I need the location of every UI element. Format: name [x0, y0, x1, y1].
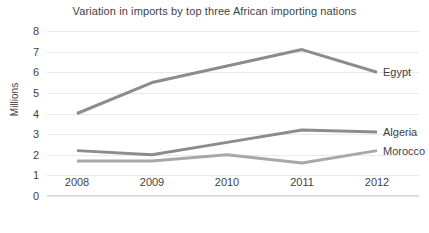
- x-axis-tick-label: 2008: [65, 176, 89, 188]
- chart-title: Variation in imports by top three Africa…: [0, 5, 429, 17]
- x-axis-tick-label: 2011: [290, 176, 314, 188]
- gridline: [47, 196, 419, 197]
- plot-area: 012345678: [47, 31, 419, 196]
- series-label-egypt: Egypt: [383, 66, 411, 78]
- series-line-egypt: [77, 50, 377, 114]
- x-axis-tick-label: 2010: [215, 176, 239, 188]
- series-lines: [47, 31, 419, 196]
- series-label-morocco: Morocco: [383, 145, 425, 157]
- x-axis-tick-label: 2012: [365, 176, 389, 188]
- y-axis-tick-label: 7: [11, 46, 39, 58]
- y-axis-tick-label: 2: [11, 149, 39, 161]
- y-axis-tick-label: 6: [11, 66, 39, 78]
- y-axis-tick-label: 1: [11, 169, 39, 181]
- y-axis-tick-label: 3: [11, 128, 39, 140]
- line-chart: Variation in imports by top three Africa…: [0, 0, 429, 233]
- y-axis-title: Millions: [9, 70, 20, 130]
- y-axis-tick-label: 4: [11, 108, 39, 120]
- y-axis-tick-label: 8: [11, 25, 39, 37]
- series-label-algeria: Algeria: [383, 126, 417, 138]
- y-axis-tick-label: 5: [11, 87, 39, 99]
- y-axis-tick-label: 0: [11, 190, 39, 202]
- x-axis-tick-label: 2009: [140, 176, 164, 188]
- series-line-algeria: [77, 130, 377, 155]
